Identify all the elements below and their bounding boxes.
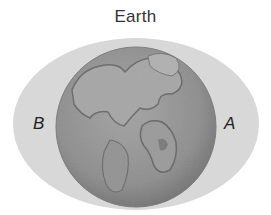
point-b-label: B <box>33 114 44 134</box>
earth-tidal-bulge-figure <box>0 0 271 215</box>
earth-globe <box>56 47 216 207</box>
point-a-label: A <box>224 114 235 134</box>
